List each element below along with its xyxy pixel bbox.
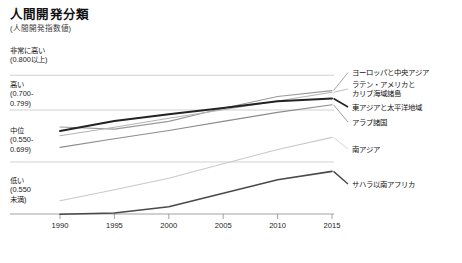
leader-line-3 [334, 105, 349, 122]
series-line-4 [60, 137, 332, 200]
category-name-1: 高い [10, 80, 33, 89]
legend-item-5: サハラ以南アフリカ [352, 180, 415, 189]
category-range-2: (0.550- 0.699) [10, 135, 33, 154]
x-tick-label-2010: 2010 [258, 221, 298, 230]
category-range-0: (0.800以上) [10, 55, 47, 64]
leader-line-1 [334, 89, 349, 92]
category-label-3: 低い(0.550 未満) [10, 176, 31, 204]
category-label-0: 非常に高い(0.800以上) [10, 46, 47, 65]
legend-item-3: アラブ諸国 [352, 118, 387, 127]
leader-line-2 [334, 99, 349, 107]
axis-lines [10, 214, 334, 219]
category-label-1: 高い(0.700- 0.799) [10, 80, 33, 108]
x-tick-label-2000: 2000 [149, 221, 189, 230]
leader-line-4 [334, 137, 349, 149]
series-line-1 [60, 92, 332, 135]
x-tick-label-2015: 2015 [312, 221, 352, 230]
category-name-3: 低い [10, 176, 31, 185]
x-tick-label-1990: 1990 [40, 221, 80, 230]
x-tick-label-1995: 1995 [94, 221, 134, 230]
category-range-3: (0.550 未満) [10, 185, 31, 204]
human-development-line-chart: 人間開発分類 (人間開発指数値) 非常に高い(0.800以上)高い(0.700-… [0, 0, 462, 263]
legend-item-4: 南アジア [352, 145, 380, 154]
x-tick-label-2005: 2005 [203, 221, 243, 230]
category-label-2: 中位(0.550- 0.699) [10, 126, 33, 154]
legend-leader-lines [334, 73, 349, 185]
legend-item-2: 東アジアと太平洋地域 [352, 103, 422, 112]
legend-item-0: ヨーロッパと中央アジア [352, 68, 429, 77]
gridlines [10, 75, 334, 162]
category-name-2: 中位 [10, 126, 33, 135]
legend-item-1: ラテン・アメリカと カリブ海域諸島 [352, 80, 415, 98]
leader-line-0 [334, 73, 349, 91]
category-range-1: (0.700- 0.799) [10, 89, 33, 108]
leader-line-5 [334, 171, 349, 184]
data-series-lines [60, 91, 332, 215]
category-name-0: 非常に高い [10, 46, 47, 55]
